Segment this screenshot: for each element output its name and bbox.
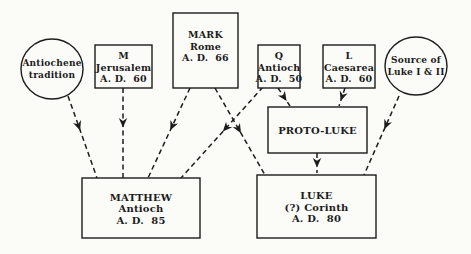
node-proto-luke: PROTO-LUKE — [268, 107, 367, 153]
matthew-label: MATTHEWAntiochA. D. 85 — [110, 191, 173, 225]
source-of-luke-i-ii-label: Source ofLuke I & II — [387, 55, 444, 77]
arrowhead-icon — [166, 120, 178, 132]
node-q-antioch: QAntiochA. D. 50 — [255, 45, 303, 88]
edge-proto-luke-to-luke — [313, 153, 321, 173]
edge-m-jerusalem-to-matthew — [119, 88, 127, 178]
arrowhead-icon — [233, 123, 245, 135]
edge-antiochene-tradition-to-matthew — [68, 96, 97, 178]
arrowhead-icon — [119, 118, 127, 128]
edge-l-caesarea-to-proto-luke — [337, 88, 348, 106]
node-matthew: MATTHEWAntiochA. D. 85 — [82, 178, 200, 238]
edge-mark-rome-to-matthew — [148, 88, 190, 178]
node-luke: LUKE(?) CorinthA. D. 80 — [257, 175, 376, 238]
arrowhead-icon — [73, 120, 84, 132]
diagram-canvas: AntiochenetraditionMJerusalemA. D. 60MAR… — [0, 0, 471, 254]
proto-luke-label: PROTO-LUKE — [278, 125, 357, 136]
edge-q-antioch-to-matthew — [181, 87, 263, 178]
node-l-caesarea: LCaesareaA. D. 60 — [323, 45, 375, 88]
arrowhead-icon — [278, 91, 290, 104]
dashed-line — [364, 96, 399, 175]
node-antiochene-tradition: Antiochenetradition — [21, 39, 83, 99]
arrowhead-icon — [380, 119, 392, 131]
edge-q-antioch-to-proto-luke — [278, 88, 290, 106]
synoptic-sources-diagram: AntiochenetraditionMJerusalemA. D. 60MAR… — [0, 0, 471, 254]
edge-source-of-luke-i-ii-to-luke — [364, 96, 399, 175]
node-m-jerusalem: MJerusalemA. D. 60 — [95, 45, 152, 88]
dashed-line — [181, 87, 263, 178]
dashed-line — [68, 96, 97, 178]
node-source-of-luke-i-ii: Source ofLuke I & II — [385, 37, 447, 95]
dashed-line — [148, 88, 190, 178]
antiochene-tradition-label: Antiochenetradition — [21, 58, 81, 80]
arrowhead-icon — [313, 158, 321, 168]
arrowhead-icon — [337, 91, 348, 103]
node-mark-rome: MARKRomeA. D. 66 — [173, 13, 238, 88]
